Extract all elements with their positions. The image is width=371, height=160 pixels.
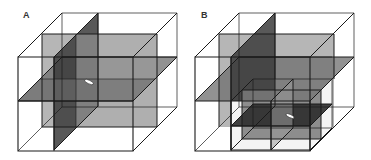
panel-b bbox=[195, 13, 354, 151]
figure-canvas bbox=[0, 0, 371, 160]
panel-a bbox=[18, 13, 177, 151]
